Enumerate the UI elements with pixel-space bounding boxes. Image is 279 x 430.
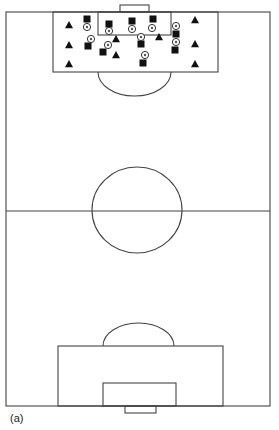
square-marker-icon <box>129 18 136 25</box>
pitch-lines <box>6 5 270 413</box>
circle-marker-icon <box>87 35 94 42</box>
triangle-marker-icon <box>112 51 120 58</box>
figure-caption: (a) <box>10 412 23 424</box>
square-marker-icon <box>150 16 157 23</box>
triangle-marker-icon <box>112 35 120 42</box>
circle-marker-dot <box>140 36 142 38</box>
circle-marker-dot <box>108 30 110 32</box>
square-marker-icon <box>140 60 147 67</box>
circle-marker-dot <box>175 25 177 27</box>
circle-marker-icon <box>137 33 144 40</box>
circle-marker-icon <box>104 41 111 48</box>
triangle-marker-icon <box>155 33 163 40</box>
triangle-marker-icon <box>65 60 73 67</box>
circle-marker-dot <box>90 38 92 40</box>
top-goal <box>120 5 149 12</box>
triangle-marker-icon <box>191 60 199 67</box>
center-circle <box>92 167 182 253</box>
circle-marker-dot <box>131 28 133 30</box>
square-marker-icon <box>173 31 180 38</box>
circle-marker-dot <box>151 27 153 29</box>
circle-marker-dot <box>86 26 88 28</box>
triangle-marker-icon <box>65 21 73 28</box>
circle-marker-icon <box>148 24 155 31</box>
circle-marker-icon <box>128 25 135 32</box>
bottom-goal-area <box>103 383 176 406</box>
bottom-goal <box>125 406 156 413</box>
soccer-pitch <box>0 0 279 430</box>
circle-marker-icon <box>141 51 148 58</box>
circle-marker-dot <box>175 41 177 43</box>
circle-marker-dot <box>144 54 146 56</box>
player-markers <box>65 16 199 68</box>
square-marker-icon <box>85 43 92 50</box>
circle-marker-dot <box>107 44 109 46</box>
circle-marker-icon <box>105 27 112 34</box>
square-marker-icon <box>172 47 179 54</box>
top-penalty-arc <box>98 72 171 96</box>
triangle-marker-icon <box>191 16 199 23</box>
bottom-penalty-arc <box>103 323 174 346</box>
square-marker-icon <box>100 49 107 56</box>
bottom-penalty-box <box>58 346 223 406</box>
circle-marker-icon <box>172 22 179 29</box>
triangle-marker-icon <box>65 41 73 48</box>
circle-marker-icon <box>172 38 179 45</box>
square-marker-icon <box>106 21 113 28</box>
circle-marker-icon <box>83 23 90 30</box>
triangle-marker-icon <box>191 40 199 47</box>
pitch-boundary <box>6 12 270 406</box>
square-marker-icon <box>84 16 91 23</box>
square-marker-icon <box>138 41 145 48</box>
